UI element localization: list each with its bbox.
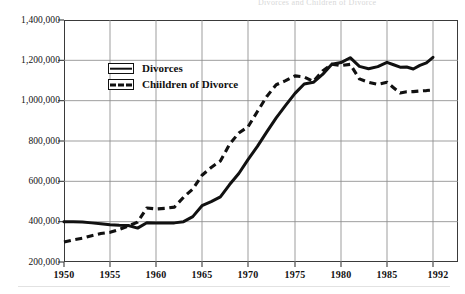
x-tick-label: 1992: [428, 270, 449, 280]
chart-svg-layer: [0, 0, 465, 294]
legend-label: Chiildren of Divorce: [142, 79, 238, 90]
chart-container: Divorces and Children of Divorce 1,400,0…: [0, 0, 465, 294]
x-tick-label: 1955: [100, 270, 121, 280]
x-tick-label: 1980: [331, 270, 352, 280]
legend-label: Divorces: [142, 63, 183, 74]
legend-swatch-dashed-line-icon: [108, 79, 134, 90]
x-tick-label: 1975: [285, 270, 306, 280]
x-axis-tick-marks: [64, 262, 433, 267]
page-bottom-rule: [18, 286, 450, 287]
x-tick-label: 1950: [54, 270, 75, 280]
x-tick-label: 1965: [192, 270, 213, 280]
x-tick-label: 1985: [377, 270, 398, 280]
series-line-children-of-divorce: [64, 64, 433, 242]
legend-swatch-solid-line-icon: [108, 63, 134, 74]
legend-item-children-of-divorce: Chiildren of Divorce: [108, 79, 238, 90]
y-axis-tick-marks: [58, 20, 64, 262]
chart-legend: Divorces Chiildren of Divorce: [108, 63, 238, 90]
x-tick-label: 1970: [238, 270, 259, 280]
x-tick-label: 1960: [146, 270, 167, 280]
legend-item-divorces: Divorces: [108, 63, 238, 74]
